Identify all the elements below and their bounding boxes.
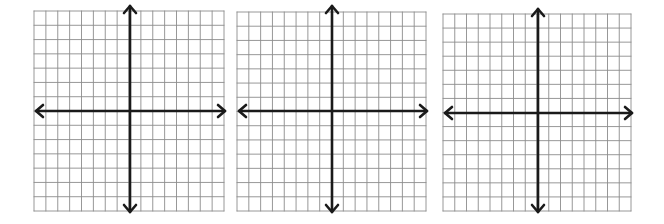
- coordinate-plane-2: [237, 6, 427, 212]
- axes: [445, 9, 632, 212]
- axes: [36, 6, 225, 212]
- coordinate-plane-1: [34, 6, 225, 212]
- coordinate-plane-3: [443, 9, 632, 212]
- axes: [239, 6, 427, 212]
- coordinate-planes-svg: [0, 0, 664, 224]
